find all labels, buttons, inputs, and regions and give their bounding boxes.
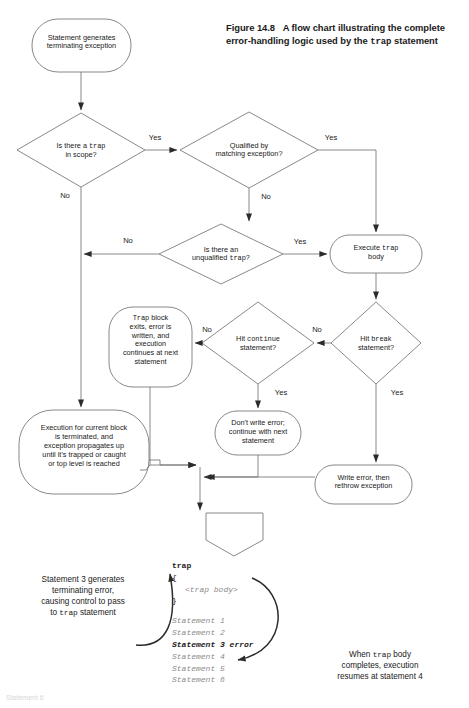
annot-right-keyword: trap <box>373 651 391 659</box>
unqualified-keyword: trap? <box>229 254 250 262</box>
node-write-rethrow-label: Write error, then rethrow exception <box>315 474 412 490</box>
break-line2: statement? <box>358 343 394 352</box>
edge-label-unqualified-yes: Yes <box>285 238 315 247</box>
trapblock-line6: statement <box>134 357 166 366</box>
execterm-line2: is terminated, and <box>55 432 113 441</box>
annot-left-line4b: statement <box>80 608 116 617</box>
node-execute-trap-label: Execute trap body <box>330 244 422 261</box>
node-break-label: Hit break statement? <box>330 335 422 352</box>
annotation-right: When trap body completes, execution resu… <box>305 650 455 683</box>
code-line-trap: trap <box>172 560 292 572</box>
trapscope-line2: in scope? <box>65 150 96 159</box>
code-line-stmt3-error: Statement 3 error <box>172 639 292 651</box>
edge-label-qualified-yes: Yes <box>316 134 346 143</box>
annot-right-line1a: When <box>349 650 370 659</box>
edge-qualified-yes-to-execute <box>318 150 376 232</box>
execterm-line3: exception propagates up <box>44 441 124 450</box>
dontwrite-line1: Don't write error; <box>231 418 285 427</box>
trapscope-keyword: trap <box>89 142 105 150</box>
figure-caption: Figure 14.8 A flow chart illustrating th… <box>226 22 469 48</box>
flowchart-canvas: Figure 14.8 A flow chart illustrating th… <box>0 0 469 708</box>
start-line2: terminating exception <box>47 41 116 50</box>
execterm-line1: Execution for current block <box>41 423 127 432</box>
trapscope-line1a: Is there a <box>57 141 87 150</box>
edge-label-qualified-no: No <box>253 193 279 202</box>
node-end-marker-shape <box>206 513 263 556</box>
code-line-close-brace: } <box>172 595 292 607</box>
annot-right-line3: resumes at statement 4 <box>337 672 423 681</box>
caption-line2a: error-handling logic used by the <box>226 35 368 46</box>
edge-execterm-to-merge <box>149 460 196 465</box>
code-line-open-brace: { <box>172 572 292 584</box>
writerethrow-line2: rethrow exception <box>335 481 393 490</box>
trapblock-line5: continues at next <box>123 348 178 357</box>
node-trap-scope-label: Is there a trap in scope? <box>26 142 136 159</box>
code-line-stmt2: Statement 2 <box>172 627 292 639</box>
code-blank-line <box>172 607 292 615</box>
annotation-left: Statement 3 generates terminating error,… <box>8 575 158 619</box>
code-line-stmt5: Statement 5 <box>172 663 292 675</box>
continue-line2: statement? <box>240 343 276 352</box>
annot-left-line2: terminating error, <box>52 586 114 595</box>
trapblock-line3: written, and <box>132 331 170 340</box>
edge-label-trapscope-yes: Yes <box>140 134 170 143</box>
footer-ghost-text: Statement 6 <box>0 694 469 701</box>
caption-line1: A flow chart illustrating the complete <box>283 22 445 33</box>
execterm-line4: until it's trapped or caught <box>42 450 125 459</box>
edge-label-break-yes: Yes <box>382 389 412 398</box>
code-sample: trap { <trap body> } Statement 1 Stateme… <box>172 560 292 686</box>
dontwrite-line2: continue with next <box>229 427 287 436</box>
caption-line2b: statement <box>394 35 438 46</box>
caption-prefix: Figure 14.8 <box>226 22 275 33</box>
trapblock-line2: exits, error is <box>130 322 172 331</box>
code-line-stmt1: Statement 1 <box>172 615 292 627</box>
annot-left-keyword: trap <box>59 609 77 617</box>
annot-left-line4a: to <box>50 608 57 617</box>
edge-label-trapscope-no: No <box>52 192 78 201</box>
trapblock-line4: execution <box>135 339 166 348</box>
edge-label-continue-yes: Yes <box>266 389 296 398</box>
continue-keyword: continue <box>247 335 280 343</box>
annot-right-line2: completes, execution <box>342 661 419 670</box>
continue-line1a: Hit <box>236 334 245 343</box>
code-line-stmt4: Statement 4 <box>172 651 292 663</box>
node-trap-block-label: Trap block exits, error is written, and … <box>109 314 192 367</box>
annot-left-line1: Statement 3 generates <box>42 575 125 584</box>
node-dont-write-label: Don't write error; continue with next st… <box>215 419 301 446</box>
execterm-line5: or top level is reached <box>48 459 119 468</box>
execute-line2: body <box>368 252 384 261</box>
execute-keyword: trap <box>382 244 398 252</box>
qualified-line2: matching exception? <box>216 149 283 158</box>
edge-label-unqualified-no: No <box>115 237 141 246</box>
break-keyword: break <box>371 335 392 343</box>
code-line-trap-body: <trap body> <box>172 584 292 596</box>
edge-dontwrite-to-merge <box>204 455 258 477</box>
edge-trapblock-down <box>150 387 196 465</box>
break-line1a: Hit <box>360 334 369 343</box>
annot-left-line3: causing control to pass <box>41 597 125 606</box>
node-start-label: Statement generates terminating exceptio… <box>32 34 131 50</box>
dontwrite-line3: statement <box>242 436 274 445</box>
node-unqualified-label: Is there an unqualified trap? <box>168 246 274 263</box>
node-execution-terminated-label: Execution for current block is terminate… <box>19 424 149 468</box>
unqualified-line2a: unqualified <box>192 253 227 262</box>
annot-right-line1b: body <box>393 650 411 659</box>
node-continue-label: Hit continue statement? <box>208 335 308 352</box>
caption-trap-keyword: trap <box>370 37 391 47</box>
edge-label-continue-no: No <box>194 326 220 335</box>
code-line-stmt6: Statement 6 <box>172 674 292 686</box>
edge-label-break-no: No <box>304 326 330 335</box>
node-qualified-label: Qualified by matching exception? <box>192 142 306 158</box>
trapblock-line1a: block <box>151 313 168 322</box>
execute-line1a: Execute <box>354 243 380 252</box>
